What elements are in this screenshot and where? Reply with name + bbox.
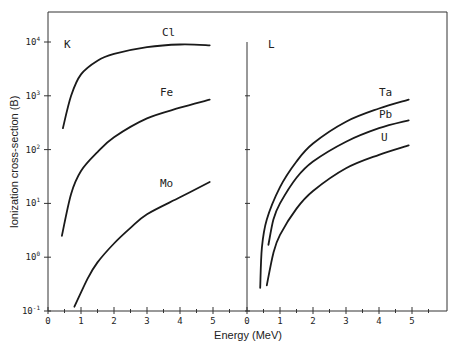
curve-ta: [260, 100, 409, 288]
x-tick-label: 0: [45, 316, 50, 326]
y-ticks: 10410310210110010-1: [22, 35, 250, 316]
series-label-mo: Mo: [160, 177, 173, 190]
series-label-pb: Pb: [379, 108, 392, 121]
y-axis-title: Ionization cross-section (B): [8, 96, 20, 229]
curve-fe: [62, 100, 210, 236]
y-tick-label: 100: [26, 250, 41, 262]
x-tick-label: 5: [409, 316, 414, 326]
series-label-ta: Ta: [379, 86, 392, 99]
curve-u: [267, 145, 409, 285]
y-tick-label: 104: [26, 35, 41, 47]
y-tick-label: 102: [26, 143, 41, 155]
x-tick-label: 4: [177, 316, 182, 326]
series-label-u: U: [381, 131, 388, 144]
panel-label-l: L: [268, 38, 275, 51]
y-tick-label: 10-1: [22, 304, 40, 316]
x-tick-label: 2: [310, 316, 315, 326]
series-label-cl: Cl: [162, 26, 175, 39]
ionization-chart: 10410310210110010-1 012345012345 K L Cl …: [0, 0, 456, 352]
curve-pb: [268, 120, 408, 245]
x-tick-label: 0: [244, 316, 249, 326]
curves: [62, 44, 409, 306]
y-tick-label: 103: [26, 89, 41, 101]
x-tick-label: 4: [376, 316, 381, 326]
series-label-fe: Fe: [160, 86, 173, 99]
x-tick-label: 3: [343, 316, 348, 326]
y-tick-label: 101: [26, 196, 41, 208]
x-tick-label: 1: [78, 316, 83, 326]
x-axis-title: Energy (MeV): [214, 329, 282, 341]
curve-mo: [74, 182, 209, 307]
x-ticks: 012345012345: [45, 307, 428, 326]
panel-label-k: K: [64, 38, 71, 51]
x-tick-label: 1: [277, 316, 282, 326]
x-tick-label: 3: [144, 316, 149, 326]
curve-cl: [63, 44, 210, 128]
x-tick-label: 2: [111, 316, 116, 326]
x-tick-label: 5: [210, 316, 215, 326]
